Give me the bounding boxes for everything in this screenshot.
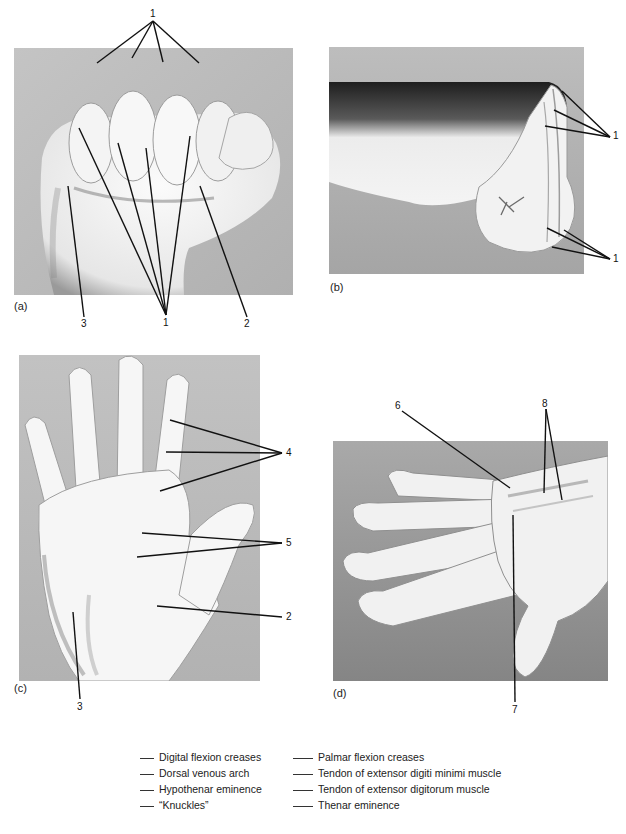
callout-extensor-digitorum-d: 8 xyxy=(542,399,548,409)
callout-palmar-creases-c: 5 xyxy=(286,538,292,548)
answer-blank[interactable] xyxy=(293,774,313,775)
legend-item: Thenar eminence xyxy=(293,798,501,814)
callout-knuckles-a: 1 xyxy=(150,9,156,19)
photo-panel-a-fist-anterior xyxy=(14,48,293,295)
callout-extensor-digiti-minimi-d: 6 xyxy=(395,401,401,411)
legend-column-left: Digital flexion creases Dorsal venous ar… xyxy=(140,750,262,814)
callout-knuckles-b-top: 1 xyxy=(613,131,619,141)
callout-thenar-a: 2 xyxy=(244,319,250,329)
hand-surface-anatomy-figure: (a) (b) xyxy=(0,0,626,834)
legend-item: Hypothenar eminence xyxy=(140,782,262,798)
answer-blank[interactable] xyxy=(140,758,154,759)
panel-label-c: (c) xyxy=(14,682,27,694)
callout-digital-creases-c: 4 xyxy=(286,448,292,458)
callout-hypothenar-a: 3 xyxy=(81,319,87,329)
legend-column-right: Palmar flexion creases Tendon of extenso… xyxy=(293,750,501,814)
panel-label-d: (d) xyxy=(333,687,346,699)
panel-label-b: (b) xyxy=(330,281,343,293)
photo-panel-d-dorsum-lateral xyxy=(333,441,608,681)
photo-panel-b-fist-lateral xyxy=(329,47,584,274)
legend-item: Tendon of extensor digiti minimi muscle xyxy=(293,766,501,782)
callout-digital-creases-a: 1 xyxy=(163,318,169,328)
answer-blank[interactable] xyxy=(140,806,154,807)
answer-blank[interactable] xyxy=(140,790,154,791)
legend-item: Tendon of extensor digitorum muscle xyxy=(293,782,501,798)
panel-label-a: (a) xyxy=(14,300,27,312)
legend-item: Palmar flexion creases xyxy=(293,750,501,766)
answer-blank[interactable] xyxy=(293,758,313,759)
answer-blank[interactable] xyxy=(293,790,313,791)
photo-panel-c-open-palm xyxy=(19,355,260,681)
answer-blank[interactable] xyxy=(140,774,154,775)
callout-knuckles-b-bottom: 1 xyxy=(613,254,619,264)
callout-thenar-c: 2 xyxy=(286,612,292,622)
legend-item: “Knuckles” xyxy=(140,798,262,814)
callout-hypothenar-c: 3 xyxy=(77,702,83,712)
legend-item: Dorsal venous arch xyxy=(140,766,262,782)
answer-blank[interactable] xyxy=(293,806,313,807)
callout-venous-arch-d: 7 xyxy=(512,705,518,715)
legend-item: Digital flexion creases xyxy=(140,750,262,766)
